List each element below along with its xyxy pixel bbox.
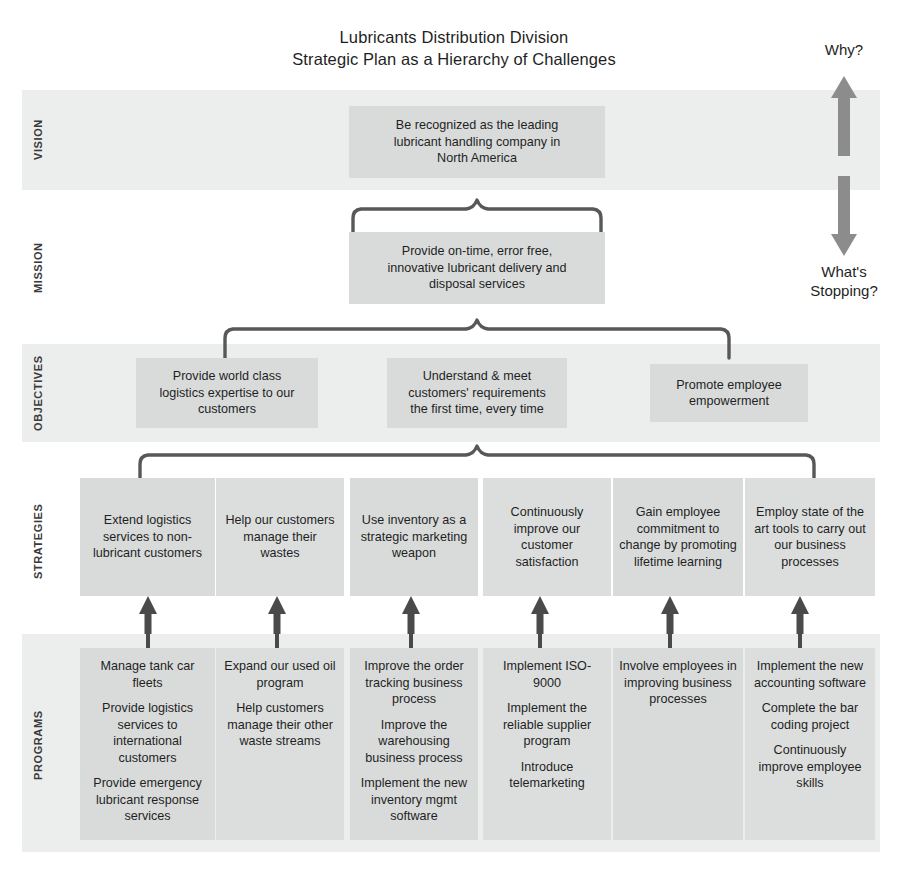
program-node-6[interactable]: Implement the new accounting software Co… [745, 648, 875, 840]
why-label: Why? [784, 40, 904, 59]
strategy-node-6[interactable]: Employ state of the art tools to carry o… [745, 478, 875, 596]
what-stopping-label: What's Stopping? [784, 262, 904, 300]
page-title: Lubricants Distribution Division Strateg… [0, 26, 908, 70]
what-stopping-line-1: What's [784, 262, 904, 281]
strategy-node-4[interactable]: Continuously improve our customer satisf… [483, 478, 611, 596]
vision-line-1: Be recognized as the leading [355, 117, 599, 134]
objective-1-line-1: Provide world class [142, 368, 312, 385]
row-label-mission: MISSION [32, 226, 44, 310]
row-label-programs: PROGRAMS [32, 660, 44, 830]
program-4-item-1: Implement ISO-9000 [489, 658, 605, 691]
objective-2-line-3: the first time, every time [393, 401, 561, 418]
program-3-item-3: Implement the new inventory mgmt softwar… [356, 775, 472, 825]
mission-line-1: Provide on-time, error free, [355, 243, 599, 260]
program-2-item-1: Expand our used oil program [222, 658, 338, 691]
mission-line-3: disposal services [355, 276, 599, 293]
program-3-item-1: Improve the order tracking business proc… [356, 658, 472, 708]
program-node-4[interactable]: Implement ISO-9000 Implement the reliabl… [483, 648, 611, 840]
title-line-1: Lubricants Distribution Division [0, 26, 908, 48]
program-1-item-2: Provide logistics services to internatio… [86, 700, 209, 766]
vision-node[interactable]: Be recognized as the leading lubricant h… [349, 106, 605, 178]
objective-node-3[interactable]: Promote employee empowerment [650, 364, 808, 422]
title-line-2: Strategic Plan as a Hierarchy of Challen… [0, 48, 908, 70]
program-3-item-2: Improve the warehousing business process [356, 717, 472, 767]
objective-node-2[interactable]: Understand & meet customers' requirement… [387, 358, 567, 428]
program-6-item-2: Complete the bar coding project [751, 700, 869, 733]
mission-node[interactable]: Provide on-time, error free, innovative … [349, 232, 605, 304]
strategy-node-2[interactable]: Help our customers manage their wastes [216, 478, 344, 596]
program-4-item-3: Introduce telemarketing [489, 759, 605, 792]
objective-3-line-1: Promote employee [656, 377, 802, 394]
strategy-node-5[interactable]: Gain employee commitment to change by pr… [613, 478, 743, 596]
objective-2-line-2: customers' requirements [393, 385, 561, 402]
program-node-1[interactable]: Manage tank car fleets Provide logistics… [80, 648, 215, 840]
why-what-stopping-double-arrow-icon [826, 76, 862, 256]
objective-2-line-1: Understand & meet [393, 368, 561, 385]
objective-1-line-3: customers [142, 401, 312, 418]
vision-line-2: lubricant handling company in [355, 134, 599, 151]
mission-line-2: innovative lubricant delivery and [355, 260, 599, 277]
strategy-hierarchy-diagram: Lubricants Distribution Division Strateg… [0, 0, 908, 884]
row-label-vision: VISION [32, 100, 44, 180]
program-4-item-2: Implement the reliable supplier program [489, 700, 605, 750]
vision-line-3: North America [355, 150, 599, 167]
program-6-item-1: Implement the new accounting software [751, 658, 869, 691]
program-1-item-3: Provide emergency lubricant response ser… [86, 775, 209, 825]
row-label-objectives: OBJECTIVES [32, 350, 44, 436]
program-6-item-3: Continuously improve employee skills [751, 742, 869, 792]
program-5-item-1: Involve employees in improving business … [619, 658, 737, 708]
program-2-item-2: Help customers manage their other waste … [222, 700, 338, 750]
program-node-3[interactable]: Improve the order tracking business proc… [350, 648, 478, 840]
what-stopping-line-2: Stopping? [784, 281, 904, 300]
objective-1-line-2: logistics expertise to our [142, 385, 312, 402]
program-node-5[interactable]: Involve employees in improving business … [613, 648, 743, 840]
objective-3-line-2: empowerment [656, 393, 802, 410]
strategy-node-3[interactable]: Use inventory as a strategic marketing w… [350, 478, 478, 596]
program-node-2[interactable]: Expand our used oil program Help custome… [216, 648, 344, 840]
strategy-node-1[interactable]: Extend logistics services to non-lubrica… [80, 478, 215, 596]
row-label-strategies: STRATEGIES [32, 478, 44, 604]
program-1-item-1: Manage tank car fleets [86, 658, 209, 691]
objective-node-1[interactable]: Provide world class logistics expertise … [136, 358, 318, 428]
